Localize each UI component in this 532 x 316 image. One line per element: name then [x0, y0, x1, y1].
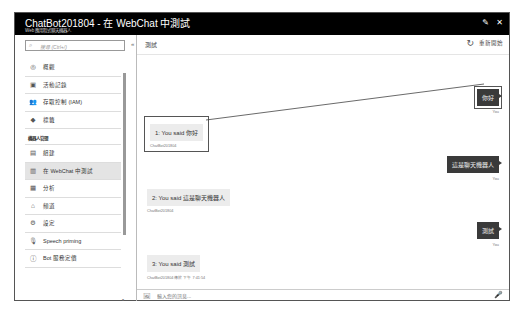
highlight-box: 1: You said 你好 ChatBot201804 [147, 119, 206, 149]
pricing-icon: ⓘ [28, 253, 38, 263]
user-message: 你好 You [477, 86, 499, 114]
sidebar-item-settings[interactable]: ⚙ 設定 [25, 215, 121, 233]
sidebar-item-label: 概觀 [43, 63, 55, 71]
sidebar-item-label: 頻道 [43, 202, 55, 210]
close-icon[interactable]: ✕ [496, 18, 503, 27]
microphone-icon[interactable]: 🎤 [494, 291, 503, 299]
chat-title: 測試 [145, 40, 157, 49]
sidebar-item-tags[interactable]: ◆ 標籤 [25, 112, 121, 130]
sidebar-item-overview[interactable]: ◎ 概觀 [25, 59, 121, 77]
sidebar-scrollbar[interactable]: ▾ [123, 73, 126, 295]
message-input[interactable] [157, 291, 477, 301]
sidebar-item-label: Bot 服務定價 [43, 254, 77, 262]
user-bubble: 測試 [477, 222, 499, 239]
channels-icon: ⌂ [28, 202, 38, 209]
image-upload-icon[interactable]: 🖼 [143, 292, 151, 299]
settings-icon: ⚙ [28, 219, 38, 227]
section-heading-bot-management: 機器人管理 [25, 129, 121, 145]
user-message: 這是聊天機器人 You [447, 153, 499, 181]
message-sender: ChatBot201804 [150, 144, 203, 148]
refresh-icon: ↻ [466, 38, 474, 48]
scrollbar-thumb[interactable] [123, 73, 126, 235]
sidebar-item-label: Speech priming [43, 238, 81, 244]
people-icon: 👥 [28, 98, 38, 106]
sidebar-item-label: 分析 [43, 184, 55, 192]
bot-message: 1: You said 你好 ChatBot201804 [147, 119, 206, 151]
pin-icon[interactable]: ✎ [482, 18, 489, 27]
message-composer: 🖼 🎤 [137, 289, 509, 302]
sidebar-item-speech-priming[interactable]: 🎙 Speech priming [25, 233, 121, 251]
user-bubble: 這是聊天機器人 [447, 156, 499, 173]
sidebar-item-label: 設定 [43, 219, 55, 227]
sidebar-item-activity-log[interactable]: ▣ 活動記錄 [25, 77, 121, 95]
bot-bubble: 3: You said 測試 [147, 255, 200, 272]
restart-button[interactable]: ↻ 重新開始 [466, 38, 503, 48]
sidebar-item-iam[interactable]: 👥 存取控制 (IAM) [25, 94, 121, 112]
sidebar: ⌕ 搜尋 (Ctrl+/) « ◎ 概觀 ▣ 活動記錄 👥 存取控制 (IAM)… [15, 35, 137, 301]
sidebar-item-label: 活動記錄 [43, 81, 67, 89]
bot-bubble: 2: You said 這是聊天機器人 [147, 189, 230, 206]
sidebar-item-test-in-webchat[interactable]: ▥ 在 WebChat 中測試 [25, 163, 121, 181]
chat-panel: 測試 ↻ 重新開始 你好 You 1: You said 你好 ChatBot2… [137, 35, 509, 301]
sidebar-item-channels[interactable]: ⌂ 頻道 [25, 198, 121, 216]
build-icon: ▤ [28, 149, 38, 157]
title-bar: ChatBot201804 - 在 WebChat 中測試 Web 應用程式聊天… [15, 13, 509, 35]
message-sender: You [477, 243, 499, 247]
sidebar-item-label: 標籤 [43, 116, 55, 124]
message-sender: You [447, 177, 499, 181]
tag-icon: ◆ [28, 116, 38, 124]
sidebar-item-label: 存取控制 (IAM) [43, 98, 82, 106]
search-input[interactable]: ⌕ 搜尋 (Ctrl+/) [25, 40, 125, 51]
window-subtitle: Web 應用程式聊天機器人 [25, 27, 71, 33]
webchat-icon: ▥ [28, 167, 38, 175]
sidebar-item-label: 組建 [43, 149, 55, 157]
chat-header: 測試 ↻ 重新開始 [137, 35, 509, 55]
sidebar-item-analytics[interactable]: ▦ 分析 [25, 180, 121, 198]
sidebar-item-pricing[interactable]: ⓘ Bot 服務定價 [25, 250, 121, 268]
webchat-window: ChatBot201804 - 在 WebChat 中測試 Web 應用程式聊天… [14, 12, 510, 301]
message-sender: ChatBot201804 [147, 209, 230, 213]
activity-log-icon: ▣ [28, 81, 38, 89]
search-icon: ⌕ [29, 42, 32, 49]
microphone-icon: 🎙 [28, 237, 38, 245]
message-sender: ChatBot201804 傳於 下午 7:41:54 [147, 275, 205, 280]
sidebar-item-label: 在 WebChat 中測試 [43, 167, 93, 175]
user-bubble: 你好 [477, 89, 499, 106]
restart-label: 重新開始 [479, 39, 503, 47]
sidebar-item-build[interactable]: ▤ 組建 [25, 145, 121, 163]
message-sender: You [477, 110, 499, 114]
sidebar-menu: ◎ 概觀 ▣ 活動記錄 👥 存取控制 (IAM) ◆ 標籤 機器人管理 ▤ 組建… [25, 59, 121, 268]
bot-bubble: 1: You said 你好 [150, 124, 203, 141]
bot-message: 2: You said 這是聊天機器人 ChatBot201804 [147, 186, 230, 213]
user-message: 測試 You [477, 219, 499, 247]
collapse-sidebar-button[interactable]: « [131, 41, 134, 47]
overview-icon: ◎ [28, 63, 38, 71]
scroll-down-icon[interactable]: ▾ [122, 297, 124, 302]
analytics-icon: ▦ [28, 184, 38, 192]
bot-message: 3: You said 測試 ChatBot201804 傳於 下午 7:41:… [147, 252, 205, 280]
search-placeholder: 搜尋 (Ctrl+/) [40, 43, 67, 50]
